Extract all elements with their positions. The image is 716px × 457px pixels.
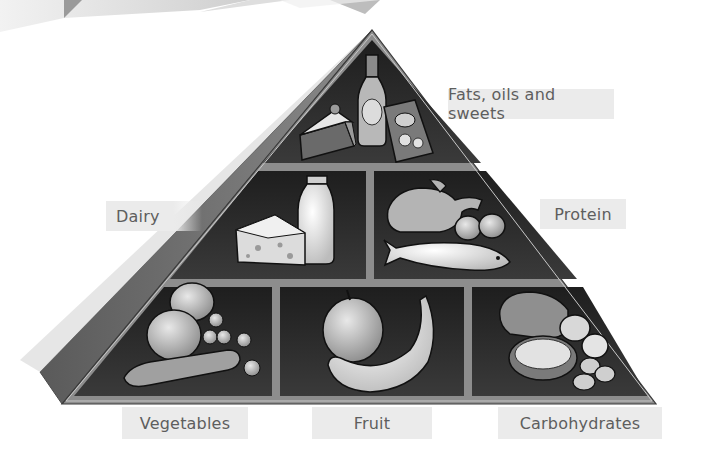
food-pyramid-diagram: Fats, oils and sweets Dairy Protein Vege… — [0, 0, 716, 457]
label-protein: Protein — [540, 199, 626, 229]
label-carbs: Carbohydrates — [498, 407, 662, 439]
decorative-arrows — [0, 0, 380, 32]
label-vegetables: Vegetables — [122, 407, 248, 439]
label-fruit-text: Fruit — [354, 414, 390, 433]
label-dairy-text: Dairy — [116, 207, 160, 226]
label-protein-text: Protein — [554, 205, 612, 224]
label-dairy: Dairy — [106, 201, 202, 231]
label-fruit: Fruit — [312, 407, 432, 439]
label-fats-text: Fats, oils and sweets — [448, 85, 614, 123]
label-carbs-text: Carbohydrates — [520, 414, 641, 433]
label-fats: Fats, oils and sweets — [448, 89, 614, 119]
label-vegetables-text: Vegetables — [140, 414, 230, 433]
